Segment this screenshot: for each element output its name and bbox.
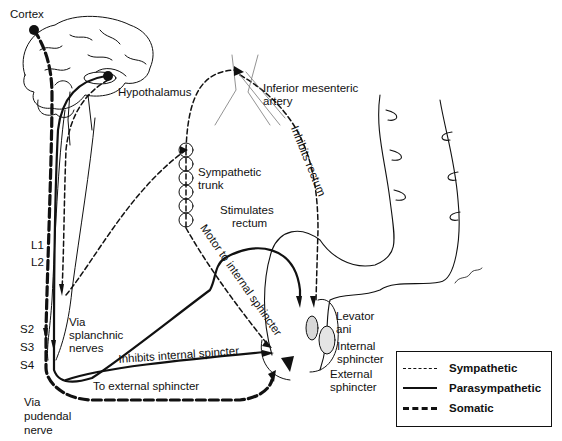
sympathetic-line-swatch (403, 368, 437, 369)
label-stimulates-rectum-1: Stimulates (220, 204, 274, 217)
label-via-splanchnic-3: nerves (69, 342, 104, 355)
label-via-pudendal-1: Via (24, 396, 40, 409)
sympathetic-inhibits-rectum (240, 75, 318, 300)
label-external-sphincter-1: External (330, 368, 372, 381)
label-via-pudendal-2: pudendal (24, 410, 71, 423)
legend: Sympathetic Parasympathetic Somatic (396, 351, 552, 427)
label-levator-1: Levator (336, 310, 374, 323)
legend-label: Sympathetic (449, 362, 517, 374)
parasympathetic-line-swatch (403, 387, 437, 389)
label-via-splanchnic-2: splanchnic (69, 329, 123, 342)
hypothalamus-node (103, 71, 113, 81)
label-internal-sphincter-2: sphincter (337, 353, 384, 366)
label-cortex: Cortex (10, 8, 44, 21)
label-to-external-sphincter: To external sphincter (93, 380, 199, 393)
label-internal-sphincter-1: Internal (337, 340, 375, 353)
legend-item-sympathetic: Sympathetic (403, 360, 517, 376)
label-s3: S3 (20, 341, 34, 354)
somatic-line-swatch (403, 407, 437, 410)
label-external-sphincter-2: sphincter (330, 381, 377, 394)
cortex-node (29, 25, 39, 35)
label-stimulates-rectum-2: rectum (232, 217, 267, 230)
legend-label: Somatic (449, 402, 494, 414)
label-s4: S4 (20, 359, 34, 372)
sympathetic-to-trunk (66, 150, 186, 295)
sympathetic-motor-internal (186, 228, 268, 345)
label-l2: L2 (31, 256, 44, 269)
label-inferior-mesenteric-2: artery (263, 95, 292, 108)
label-l1: L1 (31, 239, 44, 252)
label-via-pudendal-3: nerve (24, 424, 53, 437)
innervation-diagram: Cortex Hypothalamus Inferior mesenteric … (0, 0, 562, 441)
label-via-splanchnic-1: Via (69, 316, 85, 329)
label-levator-2: ani (336, 323, 351, 336)
legend-label: Parasympathetic (449, 382, 541, 394)
sympathetic-to-artery (186, 70, 238, 150)
label-s2: S2 (20, 323, 34, 336)
sphincter-illustration (261, 299, 338, 380)
legend-item-somatic: Somatic (403, 400, 494, 416)
artist-signature (455, 268, 482, 283)
label-hypothalamus: Hypothalamus (118, 86, 192, 99)
legend-item-parasympathetic: Parasympathetic (403, 380, 541, 396)
label-sympathetic-trunk-2: trunk (198, 179, 224, 192)
label-inferior-mesenteric-1: Inferior mesenteric (263, 82, 358, 95)
label-sympathetic-trunk-1: Sympathetic (198, 166, 261, 179)
